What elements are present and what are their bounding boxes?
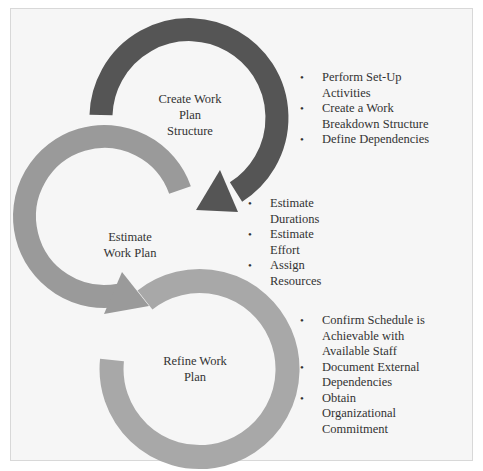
bullet-text: Achievable with: [322, 329, 404, 343]
bullet-text: Obtain: [322, 391, 356, 405]
bullet-text: Commitment: [322, 422, 388, 436]
bullet-text: Durations: [270, 212, 319, 226]
step-2-label-line: Estimate: [80, 229, 180, 245]
bullet-text: Estimate: [270, 227, 314, 241]
bullet-item: ObtainOrganizationalCommitment: [300, 391, 475, 438]
bullet-item: Document ExternalDependencies: [300, 360, 475, 391]
bullet-item: AssignResources: [248, 258, 348, 289]
bullet-text: Effort: [270, 243, 300, 257]
step-1-label-line: Create Work: [140, 91, 240, 107]
step-1-bullet-list: Perform Set-UpActivities Create a WorkBr…: [300, 70, 475, 148]
bullet-text: Activities: [322, 86, 371, 100]
bullet-item: EstimateEffort: [248, 227, 348, 258]
bullet-text: Define Dependencies: [322, 132, 429, 146]
bullet-text: Resources: [270, 274, 321, 288]
bullet-item: Create a WorkBreakdown Structure: [300, 101, 475, 132]
step-3-label: Refine Work Plan: [145, 353, 245, 385]
step-1-label-line: Plan: [140, 107, 240, 123]
bullet-item: Confirm Schedule isAchievable withAvaila…: [300, 313, 475, 360]
step-2-label: Estimate Work Plan: [80, 229, 180, 261]
step-3-label-line: Plan: [145, 369, 245, 385]
bullet-text: Document External: [322, 360, 420, 374]
bullet-text: Estimate: [270, 196, 314, 210]
bullet-item: EstimateDurations: [248, 196, 348, 227]
bullet-text: Assign: [270, 258, 305, 272]
bullet-text: Available Staff: [322, 344, 397, 358]
bullet-item: Define Dependencies: [300, 132, 475, 148]
bullet-item: Perform Set-UpActivities: [300, 70, 475, 101]
bullet-text: Create a Work: [322, 101, 394, 115]
step-1-arrowhead-icon: [196, 170, 238, 212]
bullet-text: Confirm Schedule is: [322, 313, 425, 327]
bullet-text: Breakdown Structure: [322, 117, 429, 131]
bullet-text: Organizational: [322, 406, 396, 420]
step-3-bullet-list: Confirm Schedule isAchievable withAvaila…: [300, 313, 475, 437]
bullet-text: Perform Set-Up: [322, 70, 402, 84]
step-1-label-line: Structure: [140, 123, 240, 139]
bullet-text: Dependencies: [322, 375, 392, 389]
step-1-label: Create Work Plan Structure: [140, 91, 240, 139]
step-2-bullet-list: EstimateDurations EstimateEffort AssignR…: [248, 196, 348, 289]
step-3-label-line: Refine Work: [145, 353, 245, 369]
step-2-label-line: Work Plan: [80, 245, 180, 261]
